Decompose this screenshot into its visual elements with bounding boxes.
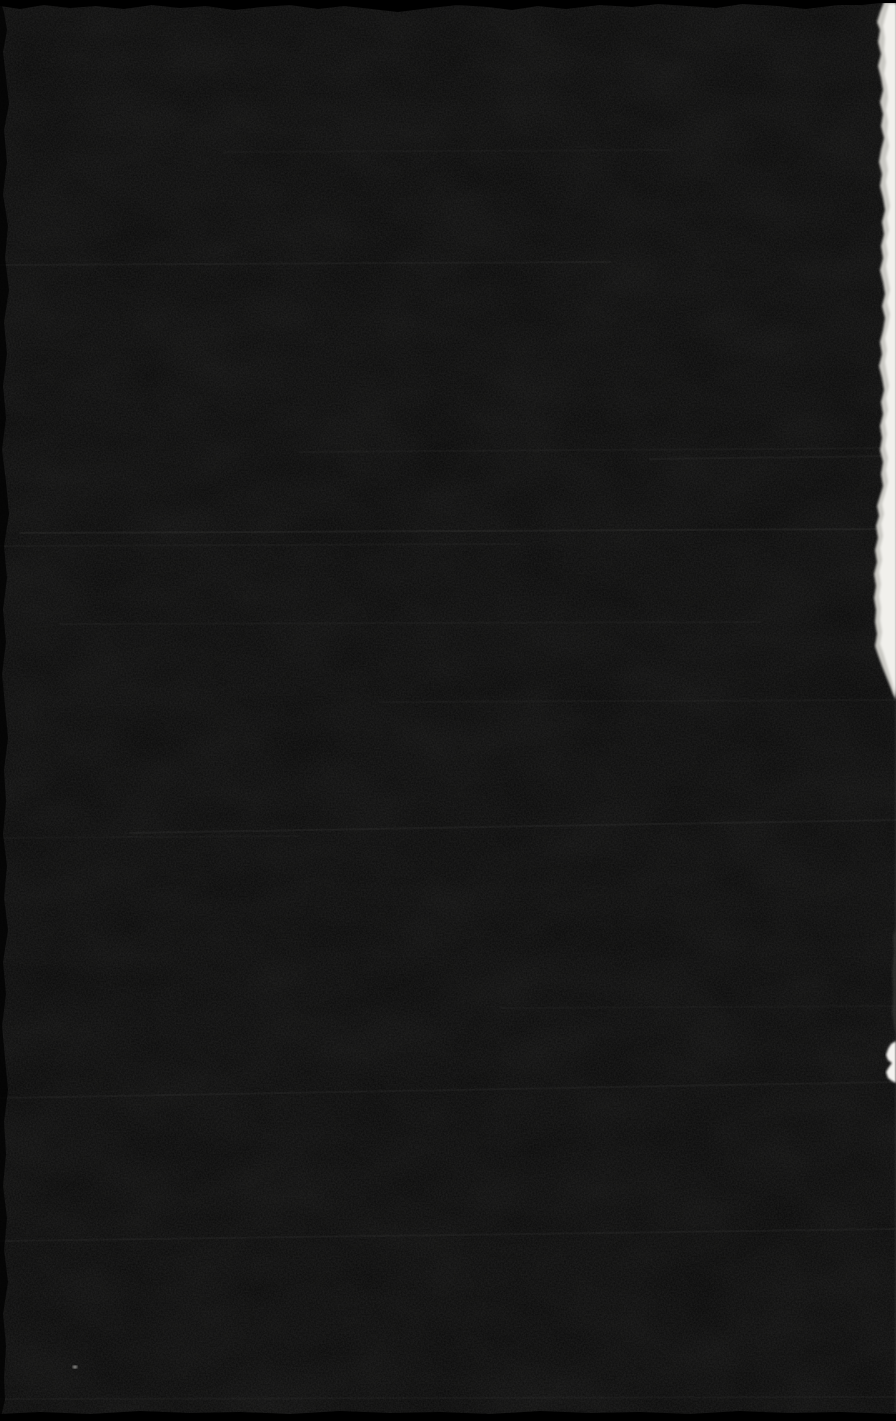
dust-speck-dot xyxy=(73,1366,78,1368)
scan-mottle-texture xyxy=(0,0,896,1421)
scanned-book-page xyxy=(0,0,896,1421)
scan-svg xyxy=(0,0,896,1421)
bottom-margin-strip xyxy=(0,1411,896,1421)
dust-speck xyxy=(73,1366,78,1368)
